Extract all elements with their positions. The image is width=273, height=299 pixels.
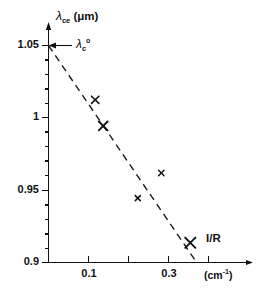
scatter-plot-figure: λce (μm) 1.05 1 0.95 0.9 0.1 0.3 I/R (cm… <box>0 0 273 299</box>
y-tick-label-2: 1 <box>0 111 39 122</box>
data-point-3 <box>135 196 140 201</box>
data-point-1 <box>92 96 99 103</box>
x-axis-arrowhead-icon <box>246 260 253 265</box>
y-axis-arrowhead-icon <box>46 22 51 30</box>
lambda-c-zero-label: λco <box>76 37 90 53</box>
trend-line <box>49 46 198 264</box>
lambda-c-zero-arrow <box>49 43 73 49</box>
x-axis-major-ticks <box>89 256 209 263</box>
x-axis-title: I/R <box>206 233 221 245</box>
x-tick-label-3: 0.3 <box>151 268 187 279</box>
lambda-c-zero-subscript: c <box>82 44 86 53</box>
y-axis-unit-label: (μm) <box>73 10 98 22</box>
y-tick-label-1: 1.05 <box>0 39 39 50</box>
data-point-2 <box>99 122 108 131</box>
plot-canvas <box>0 0 273 299</box>
x-axis-unit-exponent: -1 <box>223 268 229 275</box>
data-points <box>92 96 196 248</box>
y-axis-title: λce (μm) <box>56 10 98 25</box>
x-axis-unit-label: (cm-1) <box>204 268 232 280</box>
x-tick-label-1: 0.1 <box>71 268 107 279</box>
y-tick-label-3: 0.95 <box>0 184 39 195</box>
y-tick-label-4: 0.9 <box>0 256 39 267</box>
data-point-5 <box>185 238 195 248</box>
lambda-c-zero-superscript: o <box>86 37 90 44</box>
y-axis-title-subscript: ce <box>62 16 70 25</box>
y-axis-major-ticks <box>42 46 49 263</box>
data-point-4 <box>159 170 164 175</box>
